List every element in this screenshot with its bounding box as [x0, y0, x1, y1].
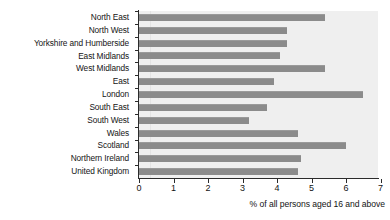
y-axis-tick	[135, 37, 139, 38]
bar-row	[139, 165, 378, 178]
x-axis-tick-label: 6	[336, 183, 356, 193]
y-axis-tick	[135, 114, 139, 115]
bar	[139, 91, 363, 98]
bar-row	[139, 114, 378, 127]
y-axis-tick	[135, 24, 139, 25]
bar	[139, 104, 267, 111]
bar-chart: North EastNorth WestYorkshire and Humber…	[0, 0, 390, 220]
x-axis-tick-label: 0	[129, 183, 149, 193]
category-label: United Kingdom	[0, 165, 133, 178]
y-axis-tick	[135, 75, 139, 76]
category-label: Wales	[0, 127, 133, 140]
y-axis-tick	[135, 127, 139, 128]
bar	[139, 130, 298, 137]
bar	[139, 117, 249, 124]
bar	[139, 142, 346, 149]
bar	[139, 52, 280, 59]
bar-row	[139, 139, 378, 152]
bar	[139, 40, 287, 47]
bar-row	[139, 11, 378, 24]
bar-row	[139, 50, 378, 63]
category-label: South West	[0, 114, 133, 127]
bar	[139, 27, 287, 34]
x-axis-tick-label: 4	[267, 183, 287, 193]
bar-series	[139, 11, 378, 178]
bar-row	[139, 101, 378, 114]
category-axis-labels: North EastNorth WestYorkshire and Humber…	[0, 11, 133, 178]
bar	[139, 168, 298, 175]
category-label: East Midlands	[0, 50, 133, 63]
bar-row	[139, 24, 378, 37]
bar	[139, 14, 325, 21]
category-label: Northern Ireland	[0, 152, 133, 165]
bar-row	[139, 75, 378, 88]
bar-row	[139, 127, 378, 140]
plot-area	[139, 11, 378, 178]
x-axis-tick-label: 7	[371, 183, 390, 193]
bar-row	[139, 152, 378, 165]
x-axis-title: % of all persons aged 16 and above	[0, 199, 385, 209]
bar	[139, 78, 274, 85]
x-axis-tick-label: 3	[233, 183, 253, 193]
bar-row	[139, 88, 378, 101]
y-axis-tick	[135, 140, 139, 141]
category-label: Yorkshire and Humberside	[0, 37, 133, 50]
y-axis-tick	[135, 88, 139, 89]
x-axis-tick-label: 5	[302, 183, 322, 193]
y-axis-tick	[135, 50, 139, 51]
y-axis-line	[138, 10, 139, 179]
bar-row	[139, 37, 378, 50]
category-label: London	[0, 88, 133, 101]
y-axis-tick	[135, 165, 139, 166]
y-axis-tick	[135, 62, 139, 63]
y-axis-tick	[135, 152, 139, 153]
category-label: East	[0, 75, 133, 88]
category-label: North West	[0, 24, 133, 37]
category-label: North East	[0, 11, 133, 24]
y-axis-tick	[135, 101, 139, 102]
bar	[139, 155, 301, 162]
bar	[139, 65, 325, 72]
x-axis-tick-label: 1	[164, 183, 184, 193]
y-axis-tick	[135, 11, 139, 12]
category-label: Scotland	[0, 139, 133, 152]
category-label: South East	[0, 101, 133, 114]
bar-row	[139, 62, 378, 75]
x-axis-tick-label: 2	[198, 183, 218, 193]
category-label: West Midlands	[0, 62, 133, 75]
